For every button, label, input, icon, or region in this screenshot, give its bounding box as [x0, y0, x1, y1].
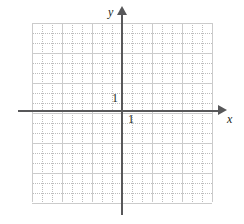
y-axis-label: y: [108, 6, 113, 18]
y-axis-line: [121, 12, 123, 215]
y-axis-arrow-icon: [117, 6, 127, 15]
x-axis-label: x: [227, 113, 232, 125]
x-axis-line: [18, 110, 222, 112]
coordinate-plane-figure: x y 1 1: [0, 0, 244, 224]
x-axis-arrow-icon: [218, 105, 227, 115]
grid-major-vertical-line: [212, 23, 213, 202]
y-axis-unit-tick-label: 1: [112, 92, 118, 104]
x-axis-unit-tick-label: 1: [128, 113, 134, 125]
